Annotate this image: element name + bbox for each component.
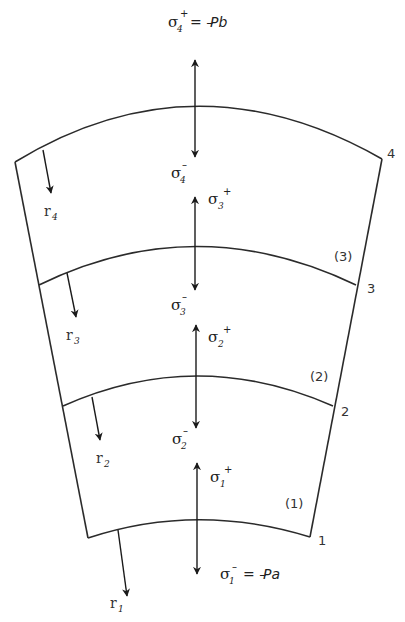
svg-text:1: 1 [229, 576, 235, 586]
label-sigma1-minus: σ 1 – = – Pa [220, 561, 280, 586]
svg-text:σ: σ [208, 190, 218, 208]
svg-text:1: 1 [118, 604, 124, 614]
interface-1: 1 [318, 533, 326, 548]
svg-text:–: – [182, 291, 187, 302]
svg-text:1: 1 [220, 479, 226, 489]
layer-3: (3) [334, 249, 352, 264]
label-sigma4-plus: σ 4 + = – Pb [168, 8, 227, 34]
svg-text:r: r [44, 203, 51, 219]
label-sigma2-minus: σ 2 – [172, 425, 188, 451]
arc-1-inner [88, 520, 310, 538]
svg-text:+: + [223, 324, 231, 335]
label-sigma1-plus: σ 1 + [210, 464, 232, 489]
svg-text:2: 2 [217, 339, 224, 349]
cylinder-layers-diagram: σ 4 + = – Pb σ 4 – σ 3 + σ 3 – σ 2 + σ 2… [0, 0, 405, 622]
svg-text:4: 4 [176, 24, 183, 34]
svg-text:–: – [182, 159, 187, 170]
label-sigma3-plus: σ 3 + [208, 186, 231, 211]
radius-arrow-2 [92, 397, 100, 440]
right-edge [310, 159, 382, 537]
arc-3 [39, 247, 356, 286]
svg-text:r: r [110, 595, 117, 611]
layer-1: (1) [285, 496, 303, 511]
layer-2: (2) [310, 369, 328, 384]
svg-text:σ: σ [208, 328, 218, 346]
label-r3: r 3 [66, 327, 80, 346]
svg-text:r: r [96, 450, 103, 466]
label-sigma2-plus: σ 2 + [208, 324, 231, 349]
label-r1: r 1 [110, 595, 124, 614]
interface-2: 2 [341, 404, 349, 419]
radius-arrow-1 [118, 530, 127, 596]
interface-4: 4 [387, 146, 395, 161]
svg-text:Pb: Pb [210, 14, 227, 30]
arc-2 [63, 376, 333, 406]
label-r4: r 4 [44, 203, 58, 222]
svg-text:–: – [232, 561, 237, 572]
radius-arrow-4 [43, 150, 51, 193]
svg-text:σ: σ [210, 468, 220, 486]
svg-text:r: r [66, 327, 73, 343]
svg-text:–: – [183, 425, 188, 436]
svg-text:+: + [223, 186, 231, 197]
interface-3: 3 [367, 281, 375, 296]
arc-4-outer [15, 106, 382, 162]
label-sigma4-minus: σ 4 – [171, 159, 187, 185]
radius-arrow-3 [67, 273, 76, 317]
label-sigma3-minus: σ 3 – [171, 291, 187, 317]
svg-text:2: 2 [180, 441, 187, 451]
svg-text:4: 4 [51, 212, 58, 222]
label-r2: r 2 [96, 450, 110, 469]
svg-text:+: + [224, 464, 232, 475]
svg-text:+: + [180, 8, 188, 19]
svg-text:3: 3 [218, 201, 224, 211]
svg-text:4: 4 [179, 175, 186, 185]
svg-text:3: 3 [74, 336, 80, 346]
svg-text:2: 2 [103, 459, 110, 469]
svg-text:3: 3 [180, 307, 186, 317]
svg-text:Pa: Pa [263, 566, 280, 582]
